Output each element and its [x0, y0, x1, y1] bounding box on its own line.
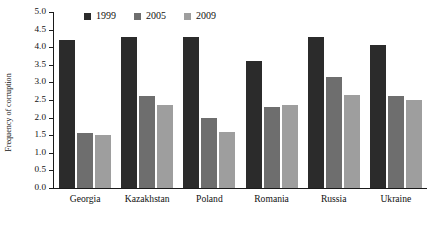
bar-ukraine-2005 [388, 96, 404, 188]
bar-ukraine-2009 [406, 100, 422, 188]
bar-romania-1999 [246, 61, 262, 188]
plot-area: 5.04.54.03.53.02.52.01.51.00.50.0 [53, 12, 427, 188]
bar-kazakhstan-2005 [139, 96, 155, 188]
y-axis-tick-label: 0.0 [35, 182, 46, 193]
bar-group-kazakhstan [121, 12, 173, 188]
bar-poland-2009 [219, 132, 235, 188]
y-axis-tick: 1.5 [49, 135, 53, 136]
y-axis-tick-label: 4.0 [35, 41, 46, 52]
bar-poland-2005 [201, 118, 217, 188]
bar-group-poland [183, 12, 235, 188]
y-axis-tick: 5.0 [49, 12, 53, 13]
y-axis-tick: 4.0 [49, 47, 53, 48]
x-axis-label-ukraine: Ukraine [368, 192, 424, 208]
y-axis-tick: 3.0 [49, 82, 53, 83]
y-axis-tick-label: 3.5 [35, 59, 46, 70]
bar-georgia-1999 [59, 40, 75, 188]
bar-kazakhstan-2009 [157, 105, 173, 188]
bar-ukraine-1999 [370, 45, 386, 188]
bar-group-georgia [59, 12, 111, 188]
y-axis-tick: 0.5 [49, 170, 53, 171]
x-axis-line [53, 188, 427, 189]
y-axis-tick-label: 2.0 [35, 112, 46, 123]
x-axis-label-romania: Romania [244, 192, 300, 208]
x-axis-label-poland: Poland [181, 192, 237, 208]
x-axis-category-labels: GeorgiaKazakhstanPolandRomaniaRussiaUkra… [54, 192, 427, 208]
y-axis-tick: 3.5 [49, 65, 53, 66]
y-axis-tick-label: 0.5 [35, 164, 46, 175]
bar-group-russia [308, 12, 360, 188]
y-axis-tick-label: 5.0 [35, 6, 46, 17]
bar-romania-2005 [264, 107, 280, 188]
bar-poland-1999 [183, 37, 199, 188]
x-axis-label-georgia: Georgia [57, 192, 113, 208]
bar-georgia-2009 [95, 135, 111, 188]
y-axis-tick: 0.0 [49, 188, 53, 189]
y-axis-tick-label: 4.5 [35, 24, 46, 35]
bar-group-ukraine [370, 12, 422, 188]
y-axis-tick: 4.5 [49, 30, 53, 31]
bar-group-romania [246, 12, 298, 188]
y-axis-tick-label: 2.5 [35, 94, 46, 105]
y-axis-tick-label: 1.0 [35, 147, 46, 158]
bar-georgia-2005 [77, 133, 93, 188]
y-axis-tick-label: 1.5 [35, 129, 46, 140]
y-axis-tick: 1.0 [49, 153, 53, 154]
y-axis-tick: 2.0 [49, 118, 53, 119]
bar-russia-1999 [308, 37, 324, 188]
y-axis-title: Frequency of corruption [2, 0, 16, 225]
x-axis-label-kazakhstan: Kazakhstan [119, 192, 175, 208]
bar-chart: Frequency of corruption 199920052009 5.0… [0, 0, 433, 225]
y-axis-tick-label: 3.0 [35, 76, 46, 87]
bar-groups [54, 12, 427, 188]
x-axis-label-russia: Russia [306, 192, 362, 208]
bar-russia-2009 [344, 95, 360, 188]
bar-romania-2009 [282, 105, 298, 188]
y-axis-tick: 2.5 [49, 100, 53, 101]
bar-kazakhstan-1999 [121, 37, 137, 188]
bar-russia-2005 [326, 77, 342, 188]
